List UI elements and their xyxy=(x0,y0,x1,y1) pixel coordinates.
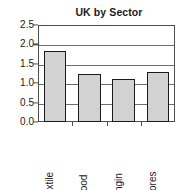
y-axis-tick-label: 1.0 xyxy=(20,78,34,88)
y-axis-tick-label: 0.0 xyxy=(20,117,34,127)
x-axis-category-label-text: Engin xyxy=(114,173,124,190)
y-axis-tick-label: 1.5 xyxy=(20,59,34,69)
x-axis-category-label: Food xyxy=(83,128,95,186)
x-axis-category-label: Engin xyxy=(118,128,130,186)
y-axis-tick-label: 0.5 xyxy=(20,98,34,108)
bar xyxy=(78,74,101,122)
x-axis-category-label-text: Textile xyxy=(45,172,55,190)
bars-container xyxy=(38,25,175,122)
x-axis-tick-mark xyxy=(72,122,73,126)
bar-chart: UK by Sector 2.52.01.51.00.50.0 TextileF… xyxy=(0,0,190,190)
bar xyxy=(147,72,170,122)
x-axis-category-label-text: Food xyxy=(79,175,89,190)
x-axis-tick-mark xyxy=(107,122,108,126)
bar xyxy=(44,51,67,122)
y-axis: 2.52.01.51.00.50.0 xyxy=(0,25,34,122)
y-axis-tick-label: 2.5 xyxy=(20,20,34,30)
x-axis-category-label-text: Stores xyxy=(148,172,158,190)
x-axis-category-label: Stores xyxy=(152,128,164,186)
x-axis-category-label: Textile xyxy=(49,128,61,186)
y-axis-tick-label: 2.0 xyxy=(20,39,34,49)
x-axis-category-labels: TextileFoodEnginStores xyxy=(38,128,175,188)
chart-title: UK by Sector xyxy=(36,6,182,18)
x-axis-ticks xyxy=(38,122,175,127)
x-axis-tick-mark xyxy=(141,122,142,126)
bar xyxy=(112,79,135,122)
